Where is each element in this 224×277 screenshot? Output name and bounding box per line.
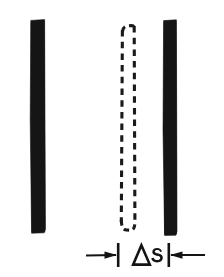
diagram-svg: |Δs|<- ===== --> bbox=[0, 0, 224, 277]
dashed-outline-bar bbox=[121, 26, 135, 231]
figure-canvas: Gap spacing diagram Two solid vertical b… bbox=[0, 0, 224, 277]
delta-glyph bbox=[133, 245, 150, 264]
dimension-annotation bbox=[86, 243, 205, 267]
variable-s-glyph bbox=[151, 248, 163, 262]
dimension-left-arrowhead bbox=[105, 251, 118, 258]
right-solid-bar bbox=[163, 20, 177, 236]
left-solid-bar bbox=[30, 20, 45, 234]
